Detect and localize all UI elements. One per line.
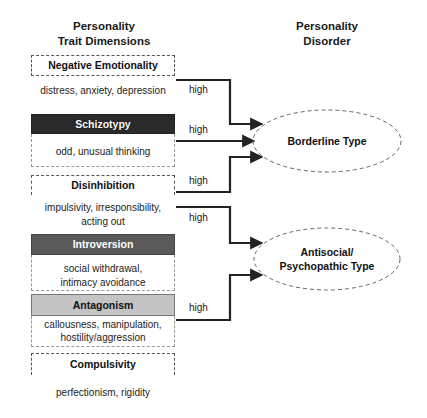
trait-disinhibition: Disinhibition [31,175,175,195]
trait-description: odd, unusual thinking [22,145,184,159]
high-label: high [189,302,208,313]
trait-schizotypy: Schizotypy [31,114,175,134]
high-label: high [189,124,208,135]
disorder-antisocial-psychopathic: Antisocial/ Psychopathic Type [262,245,392,273]
trait-antagonism: Antagonism [31,294,175,316]
trait-description: intimacy avoidance [22,276,184,290]
trait-description: impulsivity, irresponsibility, [22,201,184,215]
arrow-antagonism-to-antisocial [176,275,262,320]
disorder-label: Borderline Type [262,134,392,148]
trait-description: hostility/aggression [22,331,184,345]
high-label: high [189,212,208,223]
high-label: high [189,84,208,95]
trait-negative-emotionality: Negative Emotionality [31,55,175,76]
disorder-label: Antisocial/ [262,245,392,259]
disorder-label: Psychopathic Type [262,259,392,273]
high-label: high [189,175,208,186]
trait-description: perfectionism, rigidity [22,386,184,400]
trait-description: callousness, manipulation, [22,318,184,332]
trait-introversion: Introversion [31,234,175,255]
disorder-borderline: Borderline Type [262,134,392,148]
trait-description: acting out [22,215,184,229]
trait-description: social withdrawal, [22,262,184,276]
trait-description: distress, anxiety, depression [22,84,184,98]
trait-compulsivity: Compulsivity [31,353,175,375]
